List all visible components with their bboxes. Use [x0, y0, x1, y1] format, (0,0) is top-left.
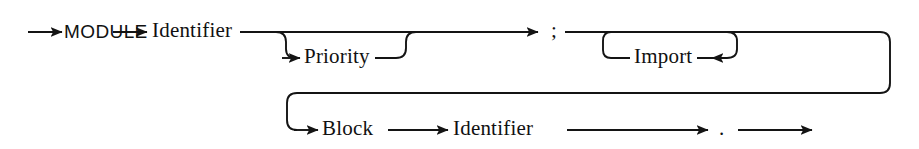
track-import-branch-down — [603, 32, 630, 58]
track-semicolon-to-wrap — [565, 32, 890, 93]
track-priority-rejoin — [375, 32, 416, 58]
terminal-semicolon: ; — [551, 20, 557, 41]
track-import-loop-return — [697, 32, 737, 58]
nonterminal-import: Import — [634, 46, 692, 67]
track-priority-branch-down — [262, 32, 296, 58]
terminal-module: MODULE — [64, 22, 148, 41]
nonterminal-block: Block — [322, 118, 373, 139]
terminal-period: . — [719, 118, 724, 139]
nonterminal-priority: Priority — [304, 46, 370, 67]
nonterminal-identifier-2: Identifier — [453, 118, 533, 139]
syntax-diagram: MODULE Identifier Priority ; Import Bloc… — [0, 0, 919, 149]
nonterminal-identifier-1: Identifier — [152, 20, 232, 41]
track-wrap-row — [287, 93, 880, 130]
